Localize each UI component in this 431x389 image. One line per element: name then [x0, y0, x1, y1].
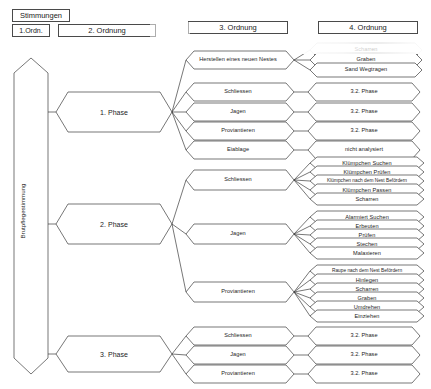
shape-p2-ord4-einziehen — [310, 310, 424, 322]
shape-p3-ord4-schliessen — [308, 327, 420, 345]
shape-p2-ord4-scharren — [310, 193, 424, 205]
shape-p2-ord3-jagen — [186, 224, 294, 244]
connector-p2jagen-2 — [294, 226, 310, 234]
shape-p2-ord3-schliessen — [186, 170, 294, 190]
shape-root-brutpflegestimmung — [14, 58, 48, 374]
shape-p1-ord4-jagen — [308, 103, 420, 121]
connector-nest-to-sandwegtragen — [294, 60, 310, 70]
shape-p2-ord3-proviantieren — [186, 282, 294, 302]
connector-p2schliessen-5 — [294, 180, 310, 199]
connector-p2-to-proviantieren — [172, 224, 186, 292]
connector-p2prov-5 — [294, 292, 310, 307]
shape-p3-ord3-proviantieren — [186, 365, 294, 383]
shape-phase-2 — [56, 204, 172, 244]
connector-p3-to-schliessen — [172, 336, 186, 354]
connector-p1-to-eiablage — [172, 112, 186, 150]
shape-p1-ord3-nest — [186, 51, 294, 69]
diagram-shapes-layer — [0, 0, 431, 389]
connector-p2jagen-4 — [294, 234, 310, 244]
shape-p1-ord3-eiablage — [186, 141, 294, 159]
diagram-canvas: Stimmungen 1.Ordn. 2. Ordnung 3. Ordnung… — [0, 0, 431, 389]
shape-p1-ord4-proviantieren — [308, 122, 420, 140]
connector-p2jagen-1 — [294, 217, 310, 234]
connector-p2jagen-5 — [294, 234, 310, 253]
connector-p3-to-jagen — [172, 354, 186, 355]
shape-p1-ord4-sandwegtragen — [310, 63, 422, 77]
shape-p1-ord3-proviantieren — [186, 122, 294, 140]
shape-p1-ord3-schliessen — [186, 83, 294, 101]
connector-p1-to-nest — [172, 60, 186, 112]
shape-p3-ord4-jagen — [308, 346, 420, 364]
shape-p1-ord3-jagen — [186, 103, 294, 121]
connector-p1-to-schliessen — [172, 92, 186, 112]
connector-p1-to-proviantieren — [172, 112, 186, 131]
connector-p3-to-proviantieren — [172, 354, 186, 374]
connector-p2schliessen-3 — [294, 180, 310, 181]
connector-nest-to-scharren — [294, 50, 310, 60]
connector-p2schliessen-1 — [294, 163, 310, 180]
connector-p2schliessen-4 — [294, 180, 310, 190]
connector-p2schliessen-2 — [294, 172, 310, 180]
shape-p1-ord4-schliessen — [308, 83, 420, 101]
connector-p2jagen-3 — [294, 234, 310, 235]
shape-p2-ord4-malaxieren — [310, 247, 424, 259]
shape-p3-ord3-schliessen — [186, 327, 294, 345]
shape-p1-ord4-eiablage — [308, 141, 420, 159]
connector-p2-to-schliessen — [172, 180, 186, 224]
connector-p2prov-6 — [294, 292, 310, 316]
shape-phase-3 — [56, 336, 172, 372]
shape-p3-ord3-jagen — [186, 346, 294, 364]
shape-p3-ord4-proviantieren — [308, 365, 420, 383]
shape-phase-1 — [56, 92, 172, 132]
